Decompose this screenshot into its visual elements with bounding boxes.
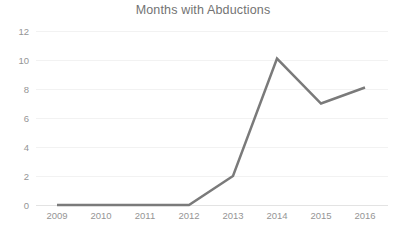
x-axis: 20092010201120122013201420152016 — [0, 0, 406, 236]
x-tick-label-2010: 2010 — [90, 210, 111, 221]
x-tick-label-2014: 2014 — [266, 210, 287, 221]
x-tick-label-2011: 2011 — [135, 210, 155, 221]
x-tick-label-2015: 2015 — [310, 210, 331, 221]
x-tick-label-2013: 2013 — [222, 210, 243, 221]
x-tick-label-2012: 2012 — [178, 210, 199, 221]
x-tick-label-2009: 2009 — [46, 210, 67, 221]
x-tick-label-2016: 2016 — [354, 210, 375, 221]
line-chart: Months with Abductions 024681012 2009201… — [0, 0, 406, 236]
